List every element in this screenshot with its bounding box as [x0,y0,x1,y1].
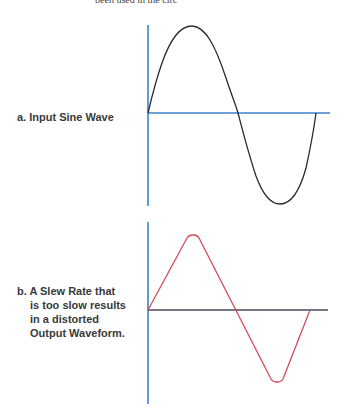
panel-a-plot [148,25,330,206]
panel-b-plot [148,222,328,404]
panel-b-slew-trace [148,235,310,382]
panel-a-sine-trace [148,26,316,204]
waveform-diagram [0,0,345,410]
